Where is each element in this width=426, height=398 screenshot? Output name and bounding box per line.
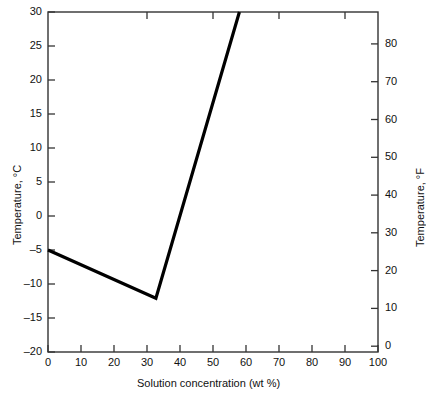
- y-right-tick-label: 30: [385, 227, 415, 238]
- y-left-tick-label: 15: [12, 108, 42, 119]
- y-left-tick-label: 20: [12, 74, 42, 85]
- y-right-tick-label: 50: [385, 151, 415, 162]
- x-tick-label: 0: [33, 357, 63, 368]
- y-right-tick-label: 60: [385, 114, 415, 125]
- y-left-tick-label: –20: [12, 346, 42, 357]
- x-tick-label: 10: [66, 357, 96, 368]
- y-right-tick-label: 20: [385, 265, 415, 276]
- y-left-tick-label: –15: [12, 312, 42, 323]
- y-left-tick-label: –5: [12, 244, 42, 255]
- y-right-tick-label: 0: [385, 340, 415, 351]
- x-tick-label: 60: [231, 357, 261, 368]
- x-tick-label: 40: [165, 357, 195, 368]
- x-tick-label: 80: [297, 357, 327, 368]
- x-axis-title: Solution concentration (wt %): [137, 377, 280, 389]
- y-right-tick-label: 70: [385, 76, 415, 87]
- y-right-tick-label: 10: [385, 302, 415, 313]
- x-tick-label: 30: [132, 357, 162, 368]
- x-tick-label: 90: [330, 357, 360, 368]
- y-left-tick-label: 25: [12, 40, 42, 51]
- x-tick-label: 70: [264, 357, 294, 368]
- y-axis-left-title: Temperature, °C: [11, 165, 23, 245]
- y-right-tick-label: 40: [385, 189, 415, 200]
- x-tick-label: 100: [363, 357, 393, 368]
- plot-area-border: [48, 12, 378, 352]
- y-left-tick-label: –10: [12, 278, 42, 289]
- plot-frame: [48, 12, 378, 352]
- x-tick-label: 20: [99, 357, 129, 368]
- y-right-tick-label: 80: [385, 38, 415, 49]
- y-left-tick-label: 30: [12, 6, 42, 17]
- x-tick-label: 50: [198, 357, 228, 368]
- y-axis-right-title: Temperature, °F: [414, 168, 426, 247]
- y-left-tick-label: 10: [12, 142, 42, 153]
